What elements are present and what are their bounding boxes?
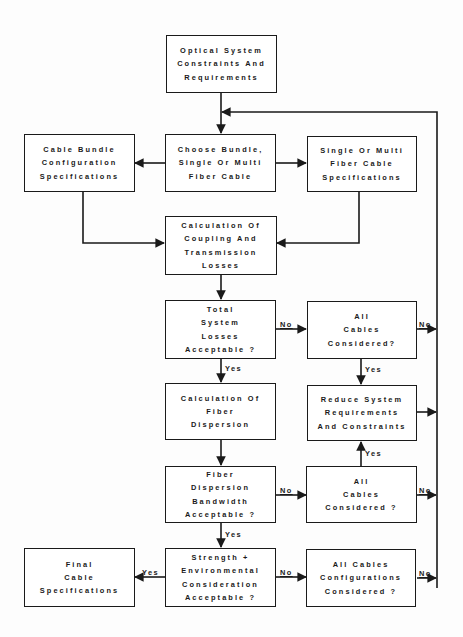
node-text: Requirements — [325, 406, 399, 419]
node-optical-system-constraints: Optical System Constraints And Requireme… — [166, 35, 277, 93]
node-text: Fiber — [206, 405, 235, 418]
node-text: Fiber Cable — [189, 170, 252, 183]
edge-label-losses-yes: Yes — [225, 364, 242, 373]
edge-label-bandwidth-no: No — [280, 486, 293, 495]
node-text: Dispersion — [191, 481, 250, 494]
node-text: Fiber Cable — [330, 157, 393, 170]
node-text: Losses — [202, 259, 240, 272]
node-text: Cable — [64, 571, 95, 584]
node-text: Dispersion — [191, 418, 250, 431]
node-text: Requirements — [184, 71, 258, 84]
node-text: Cable Bundle — [43, 143, 115, 156]
node-text: And Constraints — [318, 420, 407, 433]
node-text: Specifications — [40, 170, 120, 183]
node-text: Calculation Of — [181, 392, 261, 405]
node-text: Consideration — [182, 578, 259, 591]
node-text: Acceptable ? — [185, 343, 256, 356]
node-text: All Cables — [333, 558, 390, 571]
node-text: System — [201, 316, 240, 329]
node-text: Environmental — [181, 564, 260, 577]
node-text: Losses — [201, 330, 239, 343]
node-text: Acceptable ? — [185, 591, 256, 604]
node-text: Single Or Multi — [320, 144, 404, 157]
edge-label-all2-yes: Yes — [365, 449, 382, 458]
node-text: Total — [207, 303, 235, 316]
node-text: Optical System — [180, 44, 263, 57]
edge-label-all1-no: No — [419, 320, 432, 329]
node-text: Fiber — [206, 468, 235, 481]
edge-label-all2-no: No — [419, 486, 432, 495]
node-text: Configurations — [320, 571, 402, 584]
node-choose-cable: Choose Bundle, Single Or Multi Fiber Cab… — [165, 134, 276, 192]
edge-label-strength-yes: Yes — [142, 568, 159, 577]
node-all-configurations-considered: All Cables Configurations Considered ? — [306, 549, 416, 607]
node-text: Coupling And — [184, 232, 257, 245]
edge-label-bandwidth-yes: Yes — [225, 530, 242, 539]
node-text: Specifications — [40, 584, 120, 597]
node-text: Cables — [344, 323, 381, 336]
node-text: Considered ? — [325, 501, 397, 514]
node-strength-environmental: Strength + Environmental Consideration A… — [165, 548, 276, 607]
node-bandwidth-acceptable: Fiber Dispersion Bandwidth Acceptable ? — [165, 466, 276, 523]
node-text: Configuration — [42, 156, 118, 169]
flowchart-canvas: Optical System Constraints And Requireme… — [0, 0, 463, 637]
node-text: Choose Bundle, — [178, 143, 264, 156]
node-text: Acceptable ? — [185, 508, 256, 521]
edge-label-configs-no: No — [419, 569, 432, 578]
node-all-cables-considered-1: All Cables Considered? — [307, 301, 417, 359]
node-text: Single Or Multi — [179, 156, 263, 169]
node-text: Constraints And — [177, 57, 266, 70]
node-losses-acceptable: Total System Losses Acceptable ? — [165, 300, 276, 359]
node-calc-losses: Calculation Of Coupling And Transmission… — [165, 216, 277, 275]
node-text: Final — [66, 558, 94, 571]
node-text: Bandwidth — [192, 495, 249, 508]
node-text: Reduce System — [321, 393, 403, 406]
node-final-cable-spec: Final Cable Specifications — [24, 548, 135, 607]
edge-label-strength-no: No — [280, 568, 293, 577]
edge-label-all1-yes: Yes — [365, 365, 382, 374]
node-text: Transmission — [185, 246, 258, 259]
node-text: Specifications — [322, 171, 402, 184]
node-fiber-cable-spec: Single Or Multi Fiber Cable Specificatio… — [307, 136, 417, 192]
node-calc-dispersion: Calculation Of Fiber Dispersion — [165, 383, 276, 440]
node-all-cables-considered-2: All Cables Considered ? — [306, 466, 417, 523]
node-text: Considered? — [328, 337, 396, 350]
node-text: Calculation Of — [181, 219, 261, 232]
node-reduce-requirements: Reduce System Requirements And Constrain… — [307, 385, 417, 441]
node-text: Strength + — [192, 551, 250, 564]
edge-label-losses-no: No — [280, 320, 293, 329]
node-text: All — [354, 310, 370, 323]
node-text: All — [354, 475, 370, 488]
node-text: Considered ? — [325, 585, 397, 598]
node-text: Cables — [343, 488, 380, 501]
node-cable-bundle-spec: Cable Bundle Configuration Specification… — [24, 134, 135, 192]
